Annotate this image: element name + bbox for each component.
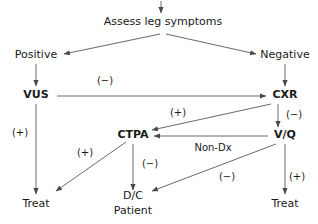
node-dc-patient-line1: D/C	[114, 189, 152, 204]
node-positive: Positive	[15, 49, 57, 61]
edge-label-vq-to-treat: (+)	[289, 171, 305, 182]
node-treat-right: Treat	[271, 198, 298, 210]
node-vus: VUS	[23, 89, 48, 101]
flowchart-diagram: Assess leg symptoms Positive Negative VU…	[0, 0, 318, 224]
node-vq: V/Q	[274, 129, 296, 141]
edge-label-vus-to-cxr: (−)	[97, 75, 113, 86]
edge-label-ctpa-to-treat: (+)	[77, 147, 93, 158]
edge-label-cxr-to-vq: (−)	[286, 109, 302, 120]
node-treat-left: Treat	[22, 198, 49, 210]
edge-label-non-dx: Non-Dx	[194, 142, 231, 153]
node-assess-leg-symptoms: Assess leg symptoms	[104, 16, 222, 28]
edge-assess-to-positive	[64, 34, 160, 54]
node-cxr: CXR	[272, 89, 297, 101]
edge-assess-to-negative	[166, 34, 256, 54]
edge-label-cxr-to-ctpa: (+)	[170, 107, 186, 118]
node-dc-patient-line2: Patient	[114, 204, 152, 219]
edge-label-vus-to-treat: (+)	[12, 127, 28, 138]
node-dc-patient: D/C Patient	[114, 189, 152, 218]
flowchart-edges	[0, 0, 318, 224]
edge-label-vq-to-dc: (−)	[219, 171, 235, 182]
node-negative: Negative	[260, 49, 309, 61]
node-ctpa: CTPA	[117, 129, 148, 141]
edge-label-ctpa-to-dc: (−)	[142, 158, 158, 169]
